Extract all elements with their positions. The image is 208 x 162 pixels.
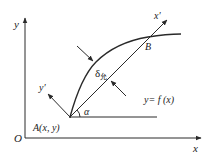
point-b-label: B xyxy=(145,41,151,52)
y-axis-label: y xyxy=(13,18,19,30)
angle-arc xyxy=(77,110,80,117)
angle-alpha-label: α xyxy=(84,106,90,117)
point-a-label: A(x, y) xyxy=(32,122,60,134)
y-prime-label: y′ xyxy=(38,82,46,93)
deviation-arrow-upper xyxy=(77,46,93,61)
deviation-label: δ允 xyxy=(95,67,107,81)
approximation-diagram: y x O x′ y′ A(x, y) B α δ允 y= f (x) xyxy=(0,0,208,162)
point-a-marker xyxy=(69,116,71,118)
deviation-arrow-lower xyxy=(111,81,126,96)
x-prime-label: x′ xyxy=(153,10,161,21)
origin-label: O xyxy=(14,132,22,144)
x-axis-label: x xyxy=(192,142,198,154)
deviation-subscript: 允 xyxy=(100,72,107,81)
curve-label: y= f (x) xyxy=(143,94,175,106)
y-prime-axis xyxy=(48,94,70,117)
